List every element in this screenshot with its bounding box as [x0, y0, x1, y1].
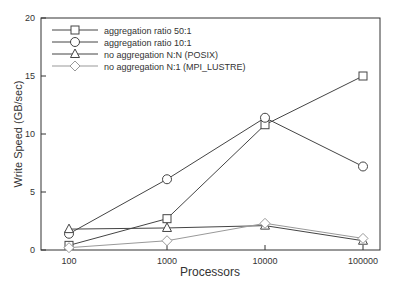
- y-tick-label: 0: [30, 245, 35, 255]
- y-axis-label: Write Speed (GB/sec): [12, 81, 24, 188]
- legend-label: aggregation ratio 50:1: [104, 26, 192, 36]
- x-tick-label: 100: [61, 256, 76, 266]
- series-line: [69, 118, 363, 234]
- series-group: [64, 72, 368, 253]
- legend-label: aggregation ratio 10:1: [104, 38, 192, 48]
- legend-label: no aggregation N:N (POSIX): [104, 50, 218, 60]
- y-axis: 05101520: [25, 13, 46, 255]
- triangle-marker-icon: [71, 49, 80, 58]
- x-tick-label: 100000: [348, 256, 378, 266]
- square-marker-icon: [163, 215, 171, 223]
- circle-marker-icon: [261, 113, 270, 122]
- legend-item: aggregation ratio 10:1: [52, 38, 192, 48]
- y-tick-label: 5: [30, 187, 35, 197]
- legend-item: no aggregation N:1 (MPI_LUSTRE): [52, 61, 246, 72]
- diamond-marker-icon: [70, 61, 80, 71]
- diamond-marker-icon: [162, 236, 172, 246]
- line-chart: 05101520 100100010000100000 aggregation …: [0, 0, 394, 286]
- y-tick-label: 10: [25, 129, 35, 139]
- series-line: [69, 76, 363, 245]
- legend-label: no aggregation N:1 (MPI_LUSTRE): [104, 62, 246, 72]
- y-tick-label: 15: [25, 71, 35, 81]
- circle-marker-icon: [71, 38, 80, 47]
- legend-item: no aggregation N:N (POSIX): [52, 49, 218, 60]
- y-tick-label: 20: [25, 13, 35, 23]
- legend: aggregation ratio 50:1aggregation ratio …: [52, 26, 246, 72]
- triangle-marker-icon: [163, 223, 172, 232]
- x-tick-label: 1000: [157, 256, 177, 266]
- circle-marker-icon: [359, 162, 368, 171]
- triangle-marker-icon: [65, 224, 74, 233]
- x-tick-label: 10000: [252, 256, 277, 266]
- x-axis: 100100010000100000: [61, 245, 378, 266]
- circle-marker-icon: [163, 175, 172, 184]
- series-circle: [65, 113, 368, 238]
- legend-item: aggregation ratio 50:1: [52, 26, 192, 36]
- square-marker-icon: [359, 72, 367, 80]
- series-diamond: [64, 218, 368, 252]
- x-axis-label: Processors: [180, 265, 240, 279]
- series-square: [65, 72, 367, 249]
- square-marker-icon: [71, 26, 79, 34]
